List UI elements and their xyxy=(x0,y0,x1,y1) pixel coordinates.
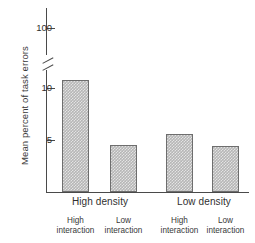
bar-low-density-high-interaction xyxy=(166,134,193,192)
y-axis-line xyxy=(46,8,47,193)
x-sub-label-4-line2: interaction xyxy=(192,226,255,236)
x-sub-label-4: Low interaction xyxy=(192,216,255,235)
bar-high-density-high-interaction xyxy=(62,80,89,192)
bar-chart-figure: Mean percent of task errors 100 10 5 Hig… xyxy=(0,0,255,243)
bar-high-density-low-interaction xyxy=(110,145,137,192)
y-tick-label-10: 10 xyxy=(41,83,52,93)
x-group-label-low-density: Low density xyxy=(146,196,255,207)
x-group-label-high-density: High density xyxy=(42,196,158,207)
bar-low-density-low-interaction xyxy=(212,146,239,192)
y-axis-title: Mean percent of task errors xyxy=(19,31,30,181)
x-axis-line xyxy=(46,192,249,193)
y-tick-label-100: 100 xyxy=(36,23,52,33)
x-sub-label-4-line1: Low xyxy=(192,216,255,226)
y-tick-label-5: 5 xyxy=(47,135,52,145)
